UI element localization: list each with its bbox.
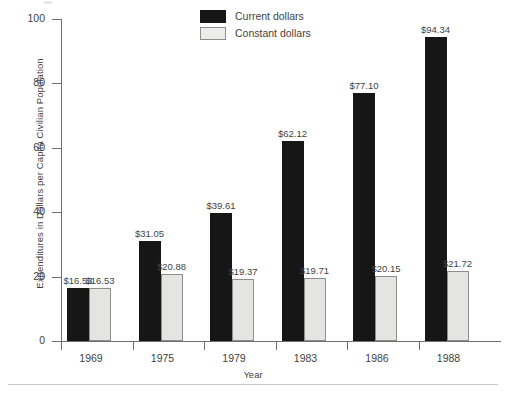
y-axis-tick-label: 80 xyxy=(5,76,45,88)
bar-current-1975 xyxy=(139,241,161,341)
y-axis-tick xyxy=(52,19,61,20)
bar-value-label: $21.72 xyxy=(438,258,478,269)
x-axis-tick-label: 1979 xyxy=(199,352,269,364)
legend-label-constant: Constant dollars xyxy=(235,27,311,39)
footer-divider xyxy=(8,384,498,385)
legend-item-current: Current dollars xyxy=(200,9,311,23)
y-axis-tick-label: 60 xyxy=(5,141,45,153)
bar-constant-1969 xyxy=(89,288,111,341)
x-axis-tick xyxy=(276,342,277,350)
legend-swatch-current-icon xyxy=(200,10,226,23)
x-axis-tick xyxy=(419,342,420,350)
bar-value-label: $94.34 xyxy=(416,24,456,35)
x-axis-line xyxy=(61,341,501,342)
x-axis-tick-label: 1983 xyxy=(271,352,341,364)
y-axis-tick xyxy=(52,83,61,84)
bar-current-1979 xyxy=(210,213,232,341)
x-axis-tick xyxy=(61,342,62,350)
y-axis-tick-label: 40 xyxy=(5,205,45,217)
clipped-title-artifact xyxy=(44,1,52,4)
bar-chart: Expenditures in Dollars per Capita Civil… xyxy=(0,0,506,393)
bar-current-1983 xyxy=(282,141,304,341)
bar-constant-1988 xyxy=(447,271,469,341)
x-axis-title: Year xyxy=(0,369,506,380)
x-axis-tick xyxy=(204,342,205,350)
bar-value-label: $77.10 xyxy=(344,80,384,91)
bar-current-1969 xyxy=(67,288,89,341)
plot-area: $16.53$16.53$31.05$20.88$39.61$19.37$62.… xyxy=(61,19,501,341)
y-axis-tick-label: 0 xyxy=(5,334,45,346)
y-axis-tick-label: 20 xyxy=(5,270,45,282)
bar-value-label: $19.71 xyxy=(295,265,335,276)
bar-current-1988 xyxy=(425,37,447,341)
bar-value-label: $31.05 xyxy=(130,228,170,239)
bar-constant-1986 xyxy=(375,276,397,341)
x-axis-tick xyxy=(347,342,348,350)
y-axis-tick-label: 100 xyxy=(5,12,45,24)
x-axis-tick-label: 1975 xyxy=(128,352,198,364)
bar-value-label: $39.61 xyxy=(201,200,241,211)
bar-constant-1983 xyxy=(304,278,326,341)
chart-legend: Current dollars Constant dollars xyxy=(200,9,311,43)
bar-value-label: $16.53 xyxy=(80,275,120,286)
bar-value-label: $20.88 xyxy=(152,261,192,272)
x-axis-tick xyxy=(133,342,134,350)
x-axis-tick-label: 1969 xyxy=(56,352,126,364)
legend-swatch-constant-icon xyxy=(200,27,226,40)
legend-label-current: Current dollars xyxy=(235,10,304,22)
y-axis-tick xyxy=(52,148,61,149)
x-axis-tick-label: 1986 xyxy=(342,352,412,364)
legend-item-constant: Constant dollars xyxy=(200,26,311,40)
bar-value-label: $62.12 xyxy=(273,128,313,139)
x-axis-tick-label: 1988 xyxy=(414,352,484,364)
y-axis-tick xyxy=(52,212,61,213)
bar-constant-1979 xyxy=(232,279,254,341)
bar-value-label: $19.37 xyxy=(223,266,263,277)
y-axis-tick xyxy=(52,341,61,342)
bar-constant-1975 xyxy=(161,274,183,341)
bar-current-1986 xyxy=(353,93,375,341)
bar-value-label: $20.15 xyxy=(366,263,406,274)
